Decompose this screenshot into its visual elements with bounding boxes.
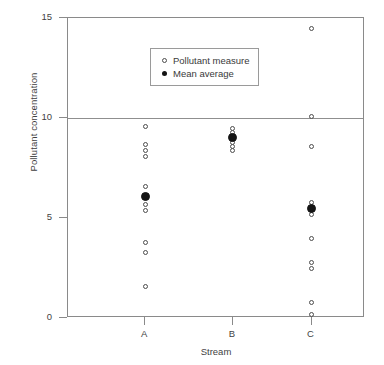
x-axis-tick	[232, 317, 233, 325]
pollutant-measure-point	[143, 184, 148, 189]
pollutant-measure-point	[143, 250, 148, 255]
pollutant-measure-point	[143, 284, 148, 289]
plot-area: Pollutant measure Mean average	[67, 17, 364, 317]
pollutant-measure-point	[309, 236, 314, 241]
x-axis-tick-label: B	[202, 328, 262, 339]
x-axis-tick	[144, 317, 145, 325]
legend-item-mean-average: Mean average	[157, 67, 250, 80]
pollutant-measure-point	[309, 114, 314, 119]
pollutant-measure-point	[143, 202, 148, 207]
pollutant-measure-point	[309, 26, 314, 31]
pollutant-measure-point	[230, 148, 235, 153]
pollutant-measure-point	[309, 312, 314, 317]
y-axis-tick-label: 0	[12, 311, 52, 322]
mean-average-point	[307, 204, 316, 213]
pollutant-measure-point	[143, 148, 148, 153]
open-circle-icon	[157, 58, 171, 63]
legend-item-pollutant-measure: Pollutant measure	[157, 54, 250, 67]
y-axis-tick	[59, 217, 67, 218]
y-axis-tick	[59, 117, 67, 118]
legend-item-label: Pollutant measure	[171, 55, 250, 66]
x-axis-tick-label: C	[281, 328, 341, 339]
y-axis-tick	[59, 317, 67, 318]
reference-line	[68, 118, 363, 119]
pollutant-measure-point	[143, 240, 148, 245]
scatter-chart-figure: Pollutant concentration 051015 Pollutant…	[0, 0, 384, 365]
pollutant-measure-point	[309, 260, 314, 265]
filled-circle-icon	[157, 71, 171, 76]
pollutant-measure-point	[143, 208, 148, 213]
pollutant-measure-point	[143, 142, 148, 147]
x-axis-tick	[311, 317, 312, 325]
y-axis-tick-label: 5	[12, 211, 52, 222]
y-axis-title: Pollutant concentration	[28, 22, 39, 222]
mean-average-point	[228, 133, 237, 142]
pollutant-measure-point	[143, 154, 148, 159]
y-axis-tick-label: 10	[12, 111, 52, 122]
pollutant-measure-point	[309, 300, 314, 305]
chart-legend: Pollutant measure Mean average	[150, 48, 259, 86]
x-axis-title: Stream	[66, 346, 366, 357]
x-axis-tick-label: A	[114, 328, 174, 339]
y-axis-tick	[59, 17, 67, 18]
y-axis-tick-label: 15	[12, 11, 52, 22]
pollutant-measure-point	[309, 144, 314, 149]
legend-item-label: Mean average	[171, 68, 234, 79]
mean-average-point	[141, 192, 150, 201]
pollutant-measure-point	[143, 124, 148, 129]
pollutant-measure-point	[309, 266, 314, 271]
